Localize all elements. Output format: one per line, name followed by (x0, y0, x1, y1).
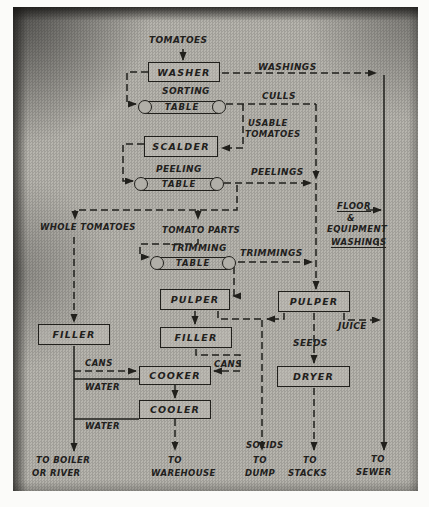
flow-label-juice: JUICE (338, 322, 367, 332)
output-stacks-2: STACKS (288, 469, 327, 478)
node-washer: WASHER (148, 62, 220, 82)
conveyor-label-peeling: PEELING (156, 165, 202, 175)
flow-label-seeds: SEEDS (293, 339, 328, 349)
node-filler-center: FILLER (160, 327, 232, 348)
output-warehouse-2: WAREHOUSE (151, 469, 216, 478)
output-sewer-1: TO (371, 455, 385, 464)
flow-label-equipment: EQUIPMENT (327, 225, 387, 234)
flow-label-water-cooker: WATER (85, 383, 120, 392)
node-scalder: SCALDER (144, 136, 218, 157)
node-dryer: DRYER (277, 366, 350, 387)
output-sewer-2: SEWER (356, 468, 392, 477)
node-pulper-center: PULPER (160, 289, 230, 310)
flow-label-cans-right: CANS (214, 360, 242, 369)
node-cooler-label: COOLER (150, 404, 200, 415)
node-filler-left: FILLER (38, 324, 110, 345)
conveyor-label-trimming: TRIMMING (171, 244, 227, 254)
node-pulper-right: PULPER (278, 291, 350, 312)
trimming-table-conveyor: TABLE (152, 255, 234, 272)
output-stacks-1: TO (303, 456, 317, 465)
flow-label-peelings: PEELINGS (251, 168, 304, 178)
node-dryer-label: DRYER (293, 371, 334, 382)
scanned-flow-diagram: TOMATOES WASHER WASHINGS SORTING TABLE C… (0, 0, 429, 507)
conveyor-label-sorting: SORTING (162, 87, 210, 97)
output-boiler-2: OR RIVER (32, 469, 81, 478)
node-filler-center-label: FILLER (174, 332, 217, 343)
flow-label-water-cooler: WATER (85, 422, 120, 431)
sorting-table-conveyor: TABLE (140, 99, 224, 116)
flow-label-solids: SOLIDS (246, 441, 284, 450)
flow-label-culls: CULLS (262, 92, 296, 102)
flow-label-tomato-parts: TOMATO PARTS (162, 226, 240, 235)
conveyor-table-label: TABLE (140, 102, 224, 112)
flow-label-cans-left: CANS (85, 359, 113, 368)
flow-label-tomatoes: TOMATOES (149, 36, 207, 46)
output-boiler-1: TO BOILER (36, 456, 90, 465)
node-cooker-label: COOKER (149, 370, 201, 381)
flow-label-washings: WASHINGS (258, 63, 317, 73)
node-pulper-center-label: PULPER (171, 294, 220, 305)
flow-label-usable-2: TOMATOES (245, 130, 300, 139)
flow-label-usable-1: USABLE (248, 119, 288, 128)
node-washer-label: WASHER (157, 67, 210, 78)
flow-label-ampersand: & (347, 214, 355, 223)
photo-paper: TOMATOES WASHER WASHINGS SORTING TABLE C… (13, 7, 418, 491)
flow-label-floor: FLOOR (337, 202, 371, 212)
output-warehouse-1: TO (168, 456, 182, 465)
output-dump-1: TO (253, 456, 267, 465)
flow-label-trimmings: TRIMMINGS (240, 249, 303, 259)
node-pulper-right-label: PULPER (290, 296, 339, 307)
flow-label-whole-tomatoes: WHOLE TOMATOES (40, 223, 136, 232)
node-scalder-label: SCALDER (152, 141, 209, 152)
node-filler-left-label: FILLER (52, 329, 95, 340)
output-dump-2: DUMP (245, 469, 275, 478)
node-cooker: COOKER (139, 366, 211, 385)
flow-label-equip-washings: WASHINGS (331, 238, 386, 248)
conveyor-table-label: TABLE (152, 258, 234, 268)
peeling-table-conveyor: TABLE (136, 176, 222, 193)
node-cooler: COOLER (139, 400, 211, 419)
conveyor-table-label: TABLE (136, 179, 222, 189)
